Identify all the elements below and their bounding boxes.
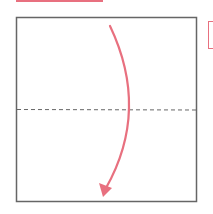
fold-diagram	[0, 0, 213, 214]
paper-square	[17, 18, 197, 202]
